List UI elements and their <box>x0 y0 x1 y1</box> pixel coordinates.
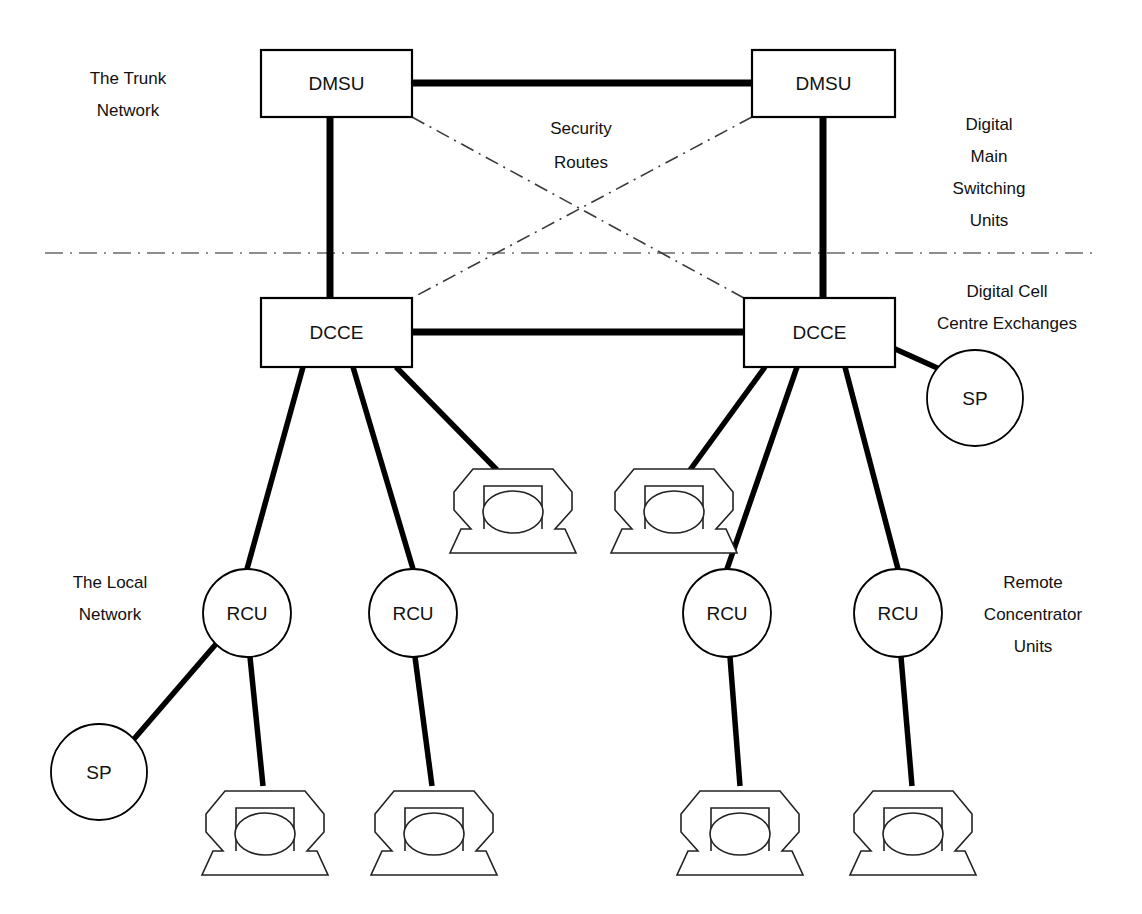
security-routes-line2: Routes <box>554 153 608 172</box>
telephone-icon[interactable] <box>677 791 803 875</box>
link-dcce-right-phone-mid-right <box>690 367 765 470</box>
dmsu-left-label: DMSU <box>309 73 365 94</box>
node-dcce-left[interactable]: DCCE <box>261 298 412 367</box>
dcce-legend-line2: Centre Exchanges <box>937 314 1077 333</box>
dmsu-legend-line3: Switching <box>953 179 1026 198</box>
label-trunk-network: The Trunk Network <box>90 69 167 120</box>
dcce-left-label: DCCE <box>310 322 364 343</box>
label-dmsu-legend: Digital Main Switching Units <box>953 115 1026 230</box>
link-rcu-1-phone-bot-1 <box>250 657 263 786</box>
dcce-legend-line1: Digital Cell <box>966 282 1047 301</box>
node-rcu-1[interactable]: RCU <box>203 569 291 657</box>
trunk-network-line2: Network <box>97 101 160 120</box>
label-dcce-legend: Digital Cell Centre Exchanges <box>937 282 1077 333</box>
telephone-icon[interactable] <box>450 469 576 553</box>
dmsu-legend-line4: Units <box>970 211 1009 230</box>
node-rcu-2[interactable]: RCU <box>369 569 457 657</box>
rcu-2-label: RCU <box>392 603 433 624</box>
local-network-line1: The Local <box>73 573 148 592</box>
dcce-right-label: DCCE <box>793 322 847 343</box>
telephone-icon[interactable] <box>202 791 328 875</box>
network-diagram: DMSU DMSU DCCE DCCE SP SP RCU <box>0 0 1142 914</box>
link-dcce-right-rcu-4 <box>845 367 898 569</box>
node-dmsu-right[interactable]: DMSU <box>752 50 895 117</box>
label-rcu-legend: Remote Concentrator Units <box>984 573 1083 656</box>
sp-left-label: SP <box>86 762 111 783</box>
link-rcu-4-phone-bot-4 <box>901 657 912 786</box>
rcu-legend-line1: Remote <box>1003 573 1063 592</box>
trunk-network-line1: The Trunk <box>90 69 167 88</box>
link-dcce-right-rcu-3 <box>727 367 797 569</box>
telephone-icon[interactable] <box>611 469 737 553</box>
telephone-icon[interactable] <box>371 791 497 875</box>
dmsu-legend-line2: Main <box>971 147 1008 166</box>
rcu-3-label: RCU <box>706 603 747 624</box>
link-rcu-2-phone-bot-2 <box>415 657 432 786</box>
node-rcu-4[interactable]: RCU <box>854 569 942 657</box>
label-security-routes: Security Routes <box>550 119 612 172</box>
rcu-4-label: RCU <box>877 603 918 624</box>
rcu-1-label: RCU <box>226 603 267 624</box>
rcu-legend-line3: Units <box>1014 637 1053 656</box>
link-dcce-left-phone-mid-left <box>396 367 497 470</box>
telephone-icon[interactable] <box>850 791 976 875</box>
link-dcce-left-rcu-2 <box>353 367 413 569</box>
rcu-legend-line2: Concentrator <box>984 605 1083 624</box>
node-sp-left[interactable]: SP <box>51 724 147 820</box>
link-rcu-1-sp-left <box>134 644 216 739</box>
node-dmsu-left[interactable]: DMSU <box>261 50 412 117</box>
label-local-network: The Local Network <box>73 573 148 624</box>
security-routes-line1: Security <box>550 119 612 138</box>
node-sp-right[interactable]: SP <box>927 350 1023 446</box>
local-network-line2: Network <box>79 605 142 624</box>
node-dcce-right[interactable]: DCCE <box>744 298 895 367</box>
node-rcu-3[interactable]: RCU <box>683 569 771 657</box>
sp-right-label: SP <box>962 388 987 409</box>
link-rcu-3-phone-bot-3 <box>730 657 740 786</box>
dmsu-legend-line1: Digital <box>965 115 1012 134</box>
diagram-canvas: DMSU DMSU DCCE DCCE SP SP RCU <box>0 0 1142 914</box>
link-dcce-right-sp-right <box>893 348 944 371</box>
dmsu-right-label: DMSU <box>796 73 852 94</box>
link-dcce-left-rcu-1 <box>247 367 303 569</box>
